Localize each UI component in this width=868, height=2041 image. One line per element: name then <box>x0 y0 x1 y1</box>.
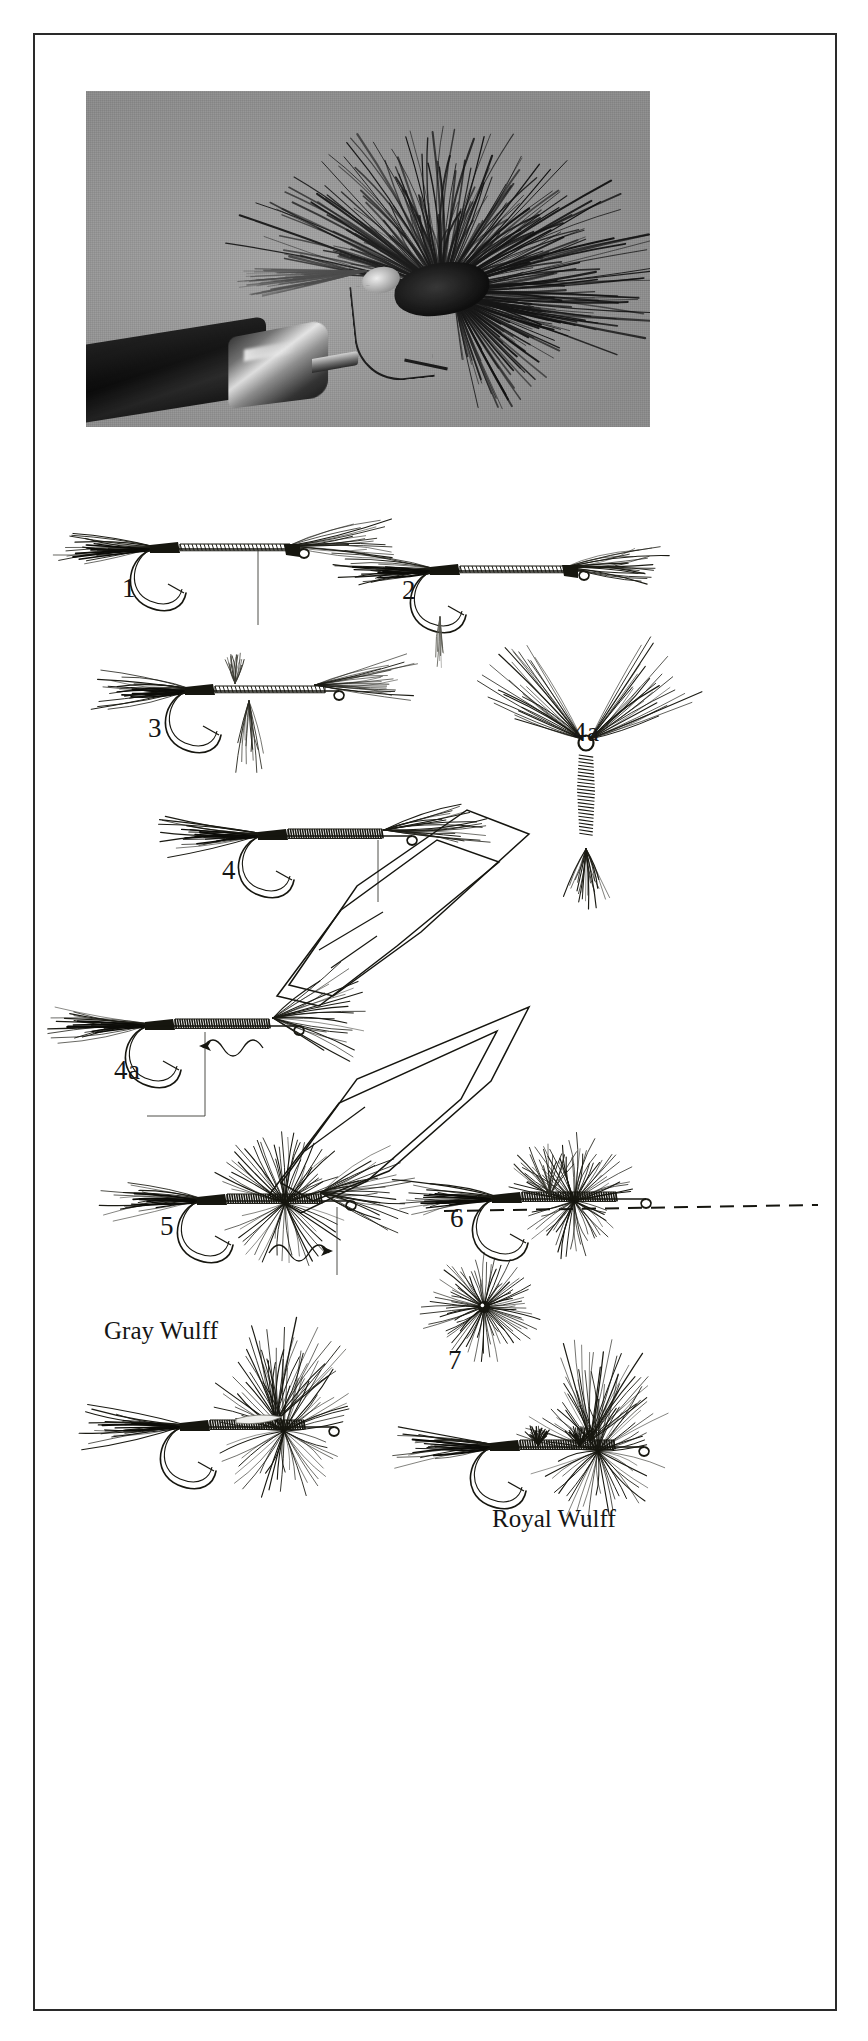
step-3-drawing <box>131 615 461 765</box>
step-3-figure <box>131 615 461 765</box>
gray-wulff-figure <box>126 1335 456 1515</box>
step-7-label: 6 <box>450 1203 464 1234</box>
royal-wulff-caption: Royal Wulff <box>492 1505 616 1533</box>
step-3-label: 3 <box>148 713 162 744</box>
step-4-label: 4 <box>222 855 236 886</box>
step-5-label: 4a <box>114 1055 140 1086</box>
step-4a-label: 4a <box>573 717 599 748</box>
step-2-label: 2 <box>402 575 416 606</box>
book-page: 1 2 3 4 <box>0 0 868 2041</box>
photo-vignette <box>86 91 650 427</box>
step-6-label: 5 <box>160 1211 174 1242</box>
tied-fly-photograph <box>86 91 650 427</box>
step-1-label: 1 <box>122 573 136 604</box>
step-diagram-panel: 1 2 3 4 <box>86 455 852 2015</box>
page-border-frame: 1 2 3 4 <box>33 33 837 2011</box>
gray-wulff-drawing <box>126 1335 456 1515</box>
